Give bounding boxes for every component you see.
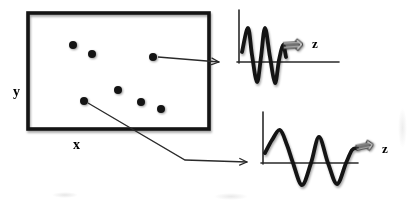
top-z-label: z [312,36,318,51]
arrowhead-stroke [211,62,219,65]
scatter-dot [69,41,77,49]
scatter-dot [137,98,145,106]
diagram-canvas: y x ⇒ z ⇒ z [0,0,409,202]
connector-arrow-line [88,103,247,162]
bottom-waveform-plot: ⇒ z [261,112,388,185]
scatter-dot [114,86,122,94]
bottom-z-label: z [382,141,388,156]
low-frequency-wave [265,130,357,185]
region-box [28,13,209,129]
scatter-dot [80,97,88,105]
right-block-arrow-icon: ⇒ [352,131,376,160]
connector-arrows [88,57,247,165]
right-block-arrow-icon: ⇒ [281,28,305,59]
top-waveform-plot: ⇒ z [237,10,339,83]
high-frequency-wave [242,28,286,83]
scatter-dot [157,105,165,113]
scatter-dots [69,41,165,113]
x-axis-label: x [73,137,80,152]
scatter-dot [88,50,96,58]
scatter-dot [149,53,157,61]
diagram-svg: y x ⇒ z ⇒ z [0,0,409,202]
y-axis-label: y [13,84,20,99]
